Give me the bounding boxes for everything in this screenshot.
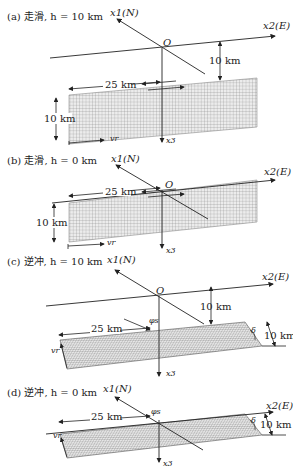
rupture-arrow <box>68 244 104 246</box>
strike-angle-label: φs <box>149 316 159 325</box>
x2-label: x2(E) <box>263 20 290 31</box>
rupture-label: vr <box>110 134 120 143</box>
panel-a: (a) 走滑, h = 10 km O x1(N) x2(E) x3 10 km… <box>7 7 290 145</box>
x3-label: x3 <box>166 246 176 255</box>
origin-label: O <box>156 285 164 296</box>
strike-arrow <box>124 319 150 330</box>
panel-b-title: (b) 走滑, h = 0 km <box>7 155 98 166</box>
length-label: 25 km <box>91 411 123 422</box>
panel-c: (c) 逆冲, h = 10 km O x1(N) x2(E) x3 10 km… <box>7 254 293 378</box>
fault-model-figure: (a) 走滑, h = 10 km O x1(N) x2(E) x3 10 km… <box>0 0 293 476</box>
origin-label: O <box>165 179 173 190</box>
x2-label: x2(E) <box>262 271 289 282</box>
x1-label: x1(N) <box>110 7 139 18</box>
depth-label: 10 km <box>209 55 241 66</box>
width-label: 10 km <box>36 217 68 228</box>
length-label: 25 km <box>105 79 137 90</box>
depth-label: 10 km <box>200 301 232 312</box>
origin-label: O <box>163 37 171 48</box>
x3-label: x3 <box>163 459 173 468</box>
width-label: 10 km <box>44 113 76 124</box>
x1-axis <box>117 19 205 74</box>
width-label: 10 km <box>264 330 293 341</box>
slip-arrow-left <box>142 81 176 84</box>
rupture-label: vr <box>53 431 63 440</box>
length-label: 25 km <box>91 323 123 334</box>
x1-label: x1(N) <box>111 153 140 164</box>
rupture-label: vr <box>51 346 61 355</box>
x1-label: x1(N) <box>107 254 136 265</box>
x3-label: x3 <box>166 369 176 378</box>
rupture-label: vr <box>107 238 117 247</box>
panel-b: (b) 走滑, h = 0 km O x1(N) x2(E) x3 25 km … <box>7 153 291 255</box>
x1-axis <box>115 270 204 324</box>
x2-label: x2(E) <box>264 166 291 177</box>
length-label: 25 km <box>105 186 137 197</box>
dip-angle-label: δ <box>251 416 256 425</box>
fault-plane <box>69 78 257 144</box>
x2-label: x2(E) <box>266 400 293 411</box>
panel-d: (d) 逆冲, h = 0 km x1(N) x2(E) x3 25 km φs… <box>7 383 293 468</box>
dip-angle-label: δ <box>251 326 256 335</box>
panel-a-title: (a) 走滑, h = 10 km <box>7 11 103 22</box>
fault-plane <box>69 180 257 242</box>
x1-label: x1(N) <box>103 383 132 394</box>
x3-label: x3 <box>166 136 176 145</box>
width-label: 10 km <box>260 419 292 430</box>
panel-d-title: (d) 逆冲, h = 0 km <box>7 386 98 398</box>
panel-c-title: (c) 逆冲, h = 10 km <box>7 255 103 267</box>
